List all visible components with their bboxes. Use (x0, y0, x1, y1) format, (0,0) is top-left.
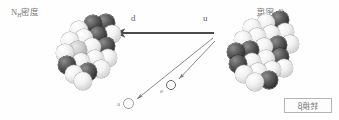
arrow-label-d: d (131, 14, 136, 23)
alpha-particle-circle (123, 98, 134, 109)
left-cluster-label: NH密度 (11, 8, 38, 18)
atom-sphere (74, 72, 92, 90)
caption-box: 转换β (284, 98, 332, 113)
electron-particle-circle (166, 80, 176, 90)
caption-text: 转换β (298, 100, 318, 111)
particle-e-arrow (179, 41, 215, 79)
figure-canvas: NH密度 CH密度 d u a e 转换β (0, 0, 339, 120)
particle-label-a: a (117, 101, 120, 108)
particle-a-arrow (137, 38, 213, 99)
arrow-label-u: u (203, 14, 208, 23)
left-cluster-cjk: 密度 (21, 7, 38, 17)
atom-sphere (246, 73, 264, 91)
particle-label-e: e (160, 88, 163, 95)
